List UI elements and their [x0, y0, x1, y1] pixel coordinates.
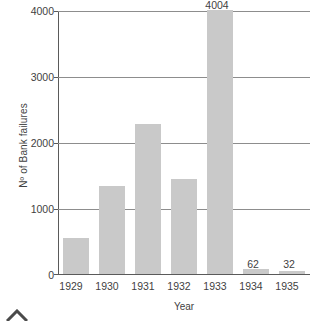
y-tickmark-4000 — [54, 11, 58, 12]
bank-failures-bar-chart: Nº of Bank failures 4000 3000 2000 1000 … — [0, 0, 318, 325]
x-tick-label-1934: 1934 — [231, 281, 271, 292]
y-tick-label-3000: 3000 — [20, 72, 54, 83]
bar-1930[interactable] — [99, 186, 125, 274]
gridline-3000 — [58, 77, 310, 78]
y-tickmark-3000 — [54, 77, 58, 78]
y-tickmark-1000 — [54, 209, 58, 210]
x-axis-title: Year — [58, 301, 310, 312]
x-tick-label-1933: 1933 — [195, 281, 235, 292]
y-tick-label-4000: 4000 — [20, 6, 54, 17]
bar-1933[interactable] — [207, 10, 233, 274]
bar-1935[interactable] — [279, 271, 305, 274]
y-tickmark-0 — [54, 274, 58, 275]
y-axis-tick-labels: 4000 3000 2000 1000 0 — [18, 0, 54, 325]
y-tick-label-0: 0 — [20, 270, 54, 281]
x-tick-label-1929: 1929 — [51, 281, 91, 292]
gridline-2000 — [58, 143, 310, 144]
bar-1932[interactable] — [171, 179, 197, 274]
x-tick-label-1931: 1931 — [123, 281, 163, 292]
y-tick-label-1000: 1000 — [20, 204, 54, 215]
x-axis-line — [58, 274, 310, 275]
caret-artifact-icon — [6, 308, 28, 321]
y-tick-label-2000: 2000 — [20, 138, 54, 149]
bar-value-1933: 4004 — [192, 0, 242, 11]
plot-area — [58, 11, 310, 275]
x-tick-label-1932: 1932 — [159, 281, 199, 292]
bar-value-1935: 32 — [264, 259, 314, 270]
bar-1929[interactable] — [63, 238, 89, 274]
gridline-4000 — [58, 11, 310, 12]
x-tick-label-1935: 1935 — [267, 281, 307, 292]
y-tickmark-2000 — [54, 143, 58, 144]
x-tick-label-1930: 1930 — [87, 281, 127, 292]
bar-1931[interactable] — [135, 124, 161, 274]
